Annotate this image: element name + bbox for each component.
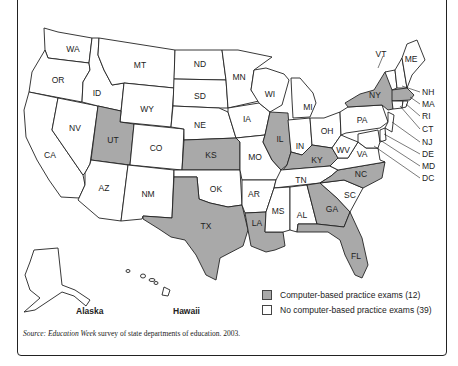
label-OH: OH — [321, 126, 334, 136]
source-rest: survey of state departments of education… — [96, 329, 240, 338]
label-MT: MT — [134, 60, 146, 70]
label-TN: TN — [295, 175, 306, 185]
label-TX: TX — [201, 221, 212, 231]
label-LA: LA — [252, 218, 263, 228]
state-DE — [380, 128, 386, 142]
legend-swatch-unshaded-icon — [262, 305, 272, 315]
label-OR: OR — [52, 75, 65, 85]
label-MN: MN — [232, 72, 245, 82]
label-CT: CT — [422, 124, 433, 134]
label-MA: MA — [422, 99, 435, 109]
label-IN: IN — [296, 141, 305, 151]
label-SC: SC — [344, 190, 356, 200]
legend-swatch-shaded-icon — [262, 290, 272, 300]
legend-item-shaded: Computer-based practice exams (12) — [262, 290, 420, 300]
label-MD: MD — [422, 161, 435, 171]
label-DE: DE — [422, 149, 434, 159]
label-FL: FL — [351, 251, 361, 261]
legend-label-shaded: Computer-based practice exams (12) — [280, 290, 420, 300]
inset-label-alaska: Alaska — [76, 306, 103, 316]
label-AZ: AZ — [99, 183, 110, 193]
inset-label-hawaii: Hawaii — [173, 306, 200, 316]
label-MO: MO — [248, 152, 262, 162]
label-WV: WV — [336, 145, 350, 155]
label-ME: ME — [405, 54, 418, 64]
label-NV: NV — [69, 123, 81, 133]
label-WA: WA — [66, 44, 80, 54]
label-WY: WY — [140, 104, 154, 114]
label-NY: NY — [369, 90, 381, 100]
label-RI: RI — [422, 111, 431, 121]
label-SD: SD — [194, 91, 206, 101]
state-HI — [126, 270, 170, 297]
label-OK: OK — [210, 184, 223, 194]
label-CO: CO — [150, 143, 163, 153]
label-ND: ND — [194, 59, 206, 69]
label-AR: AR — [248, 189, 260, 199]
label-IA: IA — [243, 114, 251, 124]
source-prefix: Source: — [23, 329, 48, 338]
label-KY: KY — [311, 155, 323, 165]
state-MI — [291, 78, 316, 118]
label-MS: MS — [272, 206, 285, 216]
label-NE: NE — [194, 120, 206, 130]
state-RI — [402, 101, 408, 108]
label-NC: NC — [355, 169, 367, 179]
label-PA: PA — [357, 115, 368, 125]
source-publication: Education Week — [48, 329, 96, 338]
state-ME — [402, 40, 425, 88]
label-UT: UT — [107, 135, 118, 145]
label-ID: ID — [93, 88, 102, 98]
label-NM: NM — [141, 189, 154, 199]
label-NH: NH — [422, 87, 434, 97]
state-MA — [392, 88, 414, 101]
label-VA: VA — [357, 149, 368, 159]
state-AK — [24, 248, 90, 312]
label-WI: WI — [265, 89, 275, 99]
label-DC: DC — [422, 173, 434, 183]
legend-label-unshaded: No computer-based practice exams (39) — [280, 305, 432, 315]
label-VT: VT — [376, 49, 387, 59]
label-KS: KS — [205, 150, 217, 160]
label-NJ: NJ — [422, 137, 432, 147]
legend-item-unshaded: No computer-based practice exams (39) — [262, 305, 432, 315]
source-note: Source: Education Week survey of state d… — [23, 329, 240, 338]
label-AL: AL — [297, 210, 308, 220]
label-IL: IL — [276, 134, 283, 144]
label-MI: MI — [303, 102, 312, 112]
label-GA: GA — [326, 204, 339, 214]
label-CA: CA — [44, 150, 56, 160]
